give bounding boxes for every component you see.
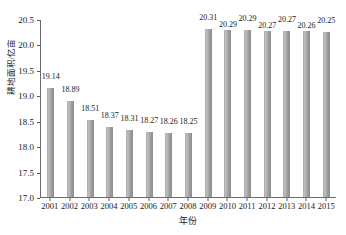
x-tick-slot: 2002 xyxy=(60,198,80,212)
x-tick-label: 2008 xyxy=(180,202,197,211)
bar-slot: 18.37 xyxy=(100,20,120,197)
bar[interactable]: 20.29 xyxy=(224,30,231,197)
x-tick-slot: 2015 xyxy=(316,198,336,212)
x-tick-label: 2001 xyxy=(41,202,58,211)
bar-value-label: 20.25 xyxy=(317,17,335,25)
bar-slot: 18.31 xyxy=(120,20,140,197)
bar-value-label: 20.27 xyxy=(278,16,296,24)
bar-value-label: 18.51 xyxy=(81,105,99,113)
x-tick-slot: 2011 xyxy=(237,198,257,212)
bar[interactable]: 20.31 xyxy=(205,29,212,197)
x-tick-slot: 2006 xyxy=(139,198,159,212)
bar[interactable]: 19.14 xyxy=(47,88,54,197)
bar-value-label: 18.37 xyxy=(101,112,119,120)
bar-slot: 18.89 xyxy=(61,20,81,197)
x-tick-label: 2009 xyxy=(199,202,216,211)
bar[interactable]: 18.26 xyxy=(165,133,172,197)
bar-value-label: 18.26 xyxy=(160,118,178,126)
y-tick-label: 19.5 xyxy=(4,66,34,75)
bar[interactable]: 20.25 xyxy=(323,32,330,197)
x-tick-label: 2014 xyxy=(298,202,315,211)
plot-area: 19.1418.8918.5118.3718.3118.2718.2618.25… xyxy=(40,20,336,198)
x-tick-slot: 2014 xyxy=(297,198,317,212)
y-tick-label: 17.0 xyxy=(4,194,34,203)
x-tick-label: 2005 xyxy=(120,202,137,211)
bar[interactable]: 18.31 xyxy=(126,130,133,197)
bar-value-label: 18.89 xyxy=(62,86,80,94)
bar-value-label: 19.14 xyxy=(42,73,60,81)
x-tick-slot: 2010 xyxy=(218,198,238,212)
bar-value-label: 20.29 xyxy=(239,15,257,23)
bar-slot: 18.27 xyxy=(139,20,159,197)
bar-value-label: 18.25 xyxy=(180,118,198,126)
x-tick-slot: 2007 xyxy=(158,198,178,212)
x-tick-label: 2003 xyxy=(81,202,98,211)
x-tick-slot: 2004 xyxy=(99,198,119,212)
bar[interactable]: 18.25 xyxy=(185,133,192,197)
bar-slot: 19.14 xyxy=(41,20,61,197)
x-tick-slot: 2013 xyxy=(277,198,297,212)
x-tick-label: 2007 xyxy=(160,202,177,211)
bar-value-label: 20.26 xyxy=(298,22,316,30)
x-tick-slot: 2008 xyxy=(178,198,198,212)
x-tick-label: 2010 xyxy=(219,202,236,211)
x-axis-ticks: 2001200220032004200520062007200820092010… xyxy=(40,198,336,212)
bar-slot: 20.29 xyxy=(218,20,238,197)
bar-slot: 18.25 xyxy=(179,20,199,197)
bar-value-label: 18.31 xyxy=(121,115,139,123)
x-tick-slot: 2012 xyxy=(257,198,277,212)
x-tick-slot: 2001 xyxy=(40,198,60,212)
bar-slot: 20.26 xyxy=(297,20,317,197)
y-tick-label: 20.0 xyxy=(4,41,34,50)
bar-slot: 20.31 xyxy=(198,20,218,197)
x-tick-label: 2012 xyxy=(258,202,275,211)
bar-slot: 20.25 xyxy=(316,20,336,197)
bar[interactable]: 18.37 xyxy=(106,127,113,197)
x-tick-slot: 2003 xyxy=(79,198,99,212)
x-tick-label: 2006 xyxy=(140,202,157,211)
y-tick-label: 17.5 xyxy=(4,168,34,177)
bar-slot: 20.27 xyxy=(277,20,297,197)
bar[interactable]: 18.89 xyxy=(67,101,74,197)
x-tick-slot: 2005 xyxy=(119,198,139,212)
x-tick-label: 2013 xyxy=(278,202,295,211)
x-tick-label: 2015 xyxy=(318,202,335,211)
x-tick-label: 2011 xyxy=(239,202,256,211)
bar[interactable]: 20.29 xyxy=(244,30,251,197)
bar-slot: 18.26 xyxy=(159,20,179,197)
x-tick-label: 2004 xyxy=(101,202,118,211)
bar-value-label: 20.31 xyxy=(199,14,217,22)
bar[interactable]: 20.27 xyxy=(264,31,271,197)
y-tick-label: 19.0 xyxy=(4,92,34,101)
bar[interactable]: 20.27 xyxy=(283,31,290,197)
bar[interactable]: 18.27 xyxy=(146,132,153,197)
bar-slot: 20.29 xyxy=(238,20,258,197)
bar-chart-figure: 耕地面积/亿亩 17.017.518.018.519.019.520.020.5… xyxy=(0,0,346,235)
bar-series: 19.1418.8918.5118.3718.3118.2718.2618.25… xyxy=(41,20,336,197)
bar[interactable]: 18.51 xyxy=(87,120,94,197)
x-tick-label: 2002 xyxy=(61,202,78,211)
y-axis-ticks: 17.017.518.018.519.019.520.020.5 xyxy=(0,0,40,235)
x-tick-slot: 2009 xyxy=(198,198,218,212)
bar-value-label: 20.27 xyxy=(258,22,276,30)
bar-slot: 18.51 xyxy=(80,20,100,197)
y-tick-label: 18.0 xyxy=(4,143,34,152)
x-axis-title: 年份 xyxy=(40,214,336,227)
bar-value-label: 20.29 xyxy=(219,21,237,29)
y-tick-label: 20.5 xyxy=(4,16,34,25)
bar-slot: 20.27 xyxy=(257,20,277,197)
bar-value-label: 18.27 xyxy=(140,117,158,125)
bar[interactable]: 20.26 xyxy=(303,31,310,197)
y-tick-label: 18.5 xyxy=(4,117,34,126)
